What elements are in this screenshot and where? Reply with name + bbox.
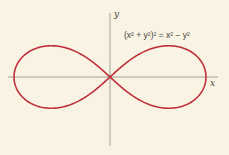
x-axis-label: x [210,78,215,88]
lemniscate-diagram [0,0,229,155]
y-axis-label: y [114,9,119,19]
equation-label: (x² + y²)² = x² − y² [124,30,190,40]
